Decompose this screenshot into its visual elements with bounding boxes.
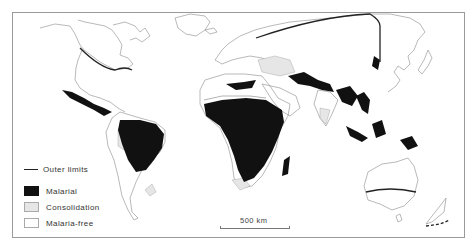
legend-item-outer-limits: Outer limits [24, 162, 100, 176]
scale-bar: 500 km [220, 216, 292, 230]
scale-label: 500 km [240, 216, 268, 225]
legend-label: Outer limits [43, 165, 88, 174]
legend-label: Consolidation [46, 203, 100, 212]
outer-limits-line-icon [24, 169, 38, 170]
malaria-free-swatch-icon [24, 218, 39, 228]
consolidation-swatch-icon [24, 202, 39, 212]
malarial-areas [62, 56, 418, 182]
scale-bar-line [220, 226, 290, 229]
legend-item-malaria-free: Malaria-free [24, 216, 100, 230]
malarial-swatch-icon [24, 186, 39, 196]
legend-item-malarial: Malarial [24, 184, 100, 198]
legend-item-consolidation: Consolidation [24, 200, 100, 214]
legend-label: Malaria-free [46, 219, 93, 228]
map-legend: Outer limits Malarial Consolidation Mala… [24, 162, 100, 232]
legend-label: Malarial [46, 187, 77, 196]
